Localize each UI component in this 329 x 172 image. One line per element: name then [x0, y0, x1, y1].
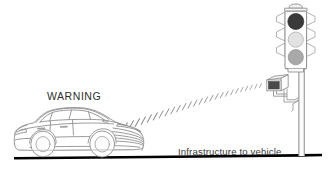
- signal-visors-left: [277, 12, 286, 57]
- caption-line-1: Infrastructure to vehicle: [178, 146, 281, 158]
- red-lamp: [288, 14, 304, 30]
- caption-block: Infrastructure to vehicle communication: [178, 121, 281, 172]
- roadside-transmitter: [267, 75, 288, 97]
- warning-label: WARNING: [47, 90, 101, 103]
- signal-visors-right: [307, 12, 316, 57]
- traffic-signal-head: [277, 4, 316, 72]
- sedan-car: [14, 108, 144, 157]
- transmitter-lens: [269, 82, 280, 89]
- green-lamp: [288, 50, 303, 65]
- diagram-canvas: WARNING Infrastructure to vehicle commun…: [0, 0, 329, 172]
- yellow-lamp: [288, 32, 303, 47]
- signal-top-cap: [289, 4, 303, 8]
- mast-arm: [284, 89, 299, 112]
